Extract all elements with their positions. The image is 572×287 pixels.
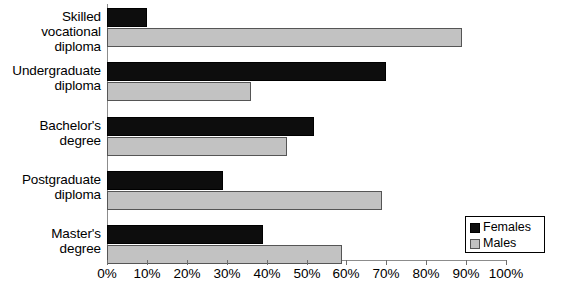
x-tick-30pct	[227, 260, 228, 265]
category-label-postgraduate-diploma: Postgraduate diploma	[0, 172, 101, 202]
category-label-line2: diploma	[0, 187, 101, 202]
category-label-line2: diploma	[0, 39, 101, 54]
x-tick-60pct	[346, 260, 347, 265]
category-label-line2: degree	[0, 241, 101, 256]
legend-swatch-males-icon	[470, 239, 480, 249]
category-label-line1: Postgraduate	[22, 172, 101, 187]
legend-swatch-females-icon	[470, 223, 480, 233]
x-tick-10pct	[147, 260, 148, 265]
bar-females-bachelor-s-degree	[107, 117, 314, 136]
bar-females-undergraduate-diploma	[107, 62, 386, 81]
bar-males-postgraduate-diploma	[107, 191, 382, 210]
bar-females-master-s-degree	[107, 225, 263, 244]
category-label-masters-degree: Master's degree	[0, 226, 101, 256]
plot-area	[107, 4, 506, 256]
chart-legend: Females Males	[465, 216, 545, 253]
x-tick-80pct	[426, 260, 427, 265]
x-tick-100pct	[506, 260, 507, 265]
category-label-skilled-vocational-diploma: Skilled vocational diploma	[0, 9, 101, 54]
legend-item-males: Males	[470, 236, 544, 251]
x-tick-40pct	[267, 260, 268, 265]
category-label-line1: Skilled vocational	[41, 9, 101, 39]
bar-females-postgraduate-diploma	[107, 171, 223, 190]
x-tick-50pct	[307, 260, 308, 265]
bar-males-skilled-vocational-diploma	[107, 28, 462, 47]
category-label-line2: diploma	[0, 78, 101, 93]
category-label-line1: Undergraduate	[12, 63, 101, 78]
bar-males-undergraduate-diploma	[107, 82, 251, 101]
x-tick-0pct	[107, 260, 108, 265]
category-label-bachelors-degree: Bachelor's degree	[0, 118, 101, 148]
category-label-line1: Master's	[51, 226, 101, 241]
legend-label-males: Males	[483, 237, 516, 250]
x-tick-90pct	[466, 260, 467, 265]
category-label-line2: degree	[0, 133, 101, 148]
x-tick-70pct	[386, 260, 387, 265]
legend-label-females: Females	[483, 221, 531, 234]
bar-females-skilled-vocational-diploma	[107, 8, 147, 27]
category-label-line1: Bachelor's	[39, 118, 101, 133]
horizontal-bar-chart: Skilled vocational diploma Undergraduate…	[0, 0, 572, 287]
x-tick-label-100pct: 100%	[476, 266, 536, 282]
legend-item-females: Females	[470, 220, 544, 235]
category-label-undergraduate-diploma: Undergraduate diploma	[0, 63, 101, 93]
x-tick-20pct	[187, 260, 188, 265]
bar-males-bachelor-s-degree	[107, 137, 287, 156]
